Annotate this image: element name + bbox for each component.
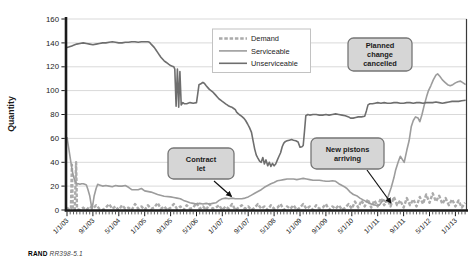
x-tick-label: 9/1/07 [233,217,251,235]
x-tick-label: 9/1/09 [310,217,328,235]
annotation-planned-change-cancelled: Plannedchangecancelled [348,38,412,71]
x-tick-label: 5/1/06 [181,217,199,235]
y-tick-label: 140 [46,39,60,48]
x-tick-label: 9/1/05 [155,217,173,235]
x-tick-label: 1/1/03 [51,217,69,235]
x-tick-label: 1/1/09 [284,217,302,235]
annotation-text-contract-let: Contract [186,155,217,164]
y-tick-label: 160 [46,15,60,24]
legend-label-unserviceable: Unserviceable [251,59,298,68]
y-tick-labels: 020406080100120140160 [46,15,60,215]
y-tick-label: 80 [50,110,59,119]
x-tick-label: 1/1/05 [129,217,147,235]
x-ticks [67,212,465,216]
y-tick-label: 0 [55,206,60,215]
caption-source: RAND [28,250,48,257]
x-tick-label: 5/1/08 [258,217,276,235]
legend-label-demand: Demand [251,34,279,43]
figure-caption: RANDRR398-5.1 [28,250,83,257]
y-axis-title: Quantity [6,96,16,132]
y-tick-label: 120 [46,62,60,71]
annotation-arrow-contract-let [214,181,232,197]
y-tick-label: 60 [50,134,59,143]
series-line-serviceable [67,74,466,209]
annotation-text-planned-change-cancelled: change [367,50,393,59]
x-tick-label: 1/1/07 [207,217,225,235]
y-ticks [61,19,64,210]
x-tick-label: 5/1/10 [336,217,354,235]
legend-label-serviceable: Serviceable [251,47,290,56]
x-tick-labels: 1/1/039/1/035/1/041/1/059/1/055/1/061/1/… [51,217,458,235]
x-tick-label: 1/1/11 [362,217,380,235]
x-tick-label: 5/1/04 [103,217,121,235]
annotation-text-contract-let: let [197,164,206,173]
y-tick-label: 40 [50,158,59,167]
annotation-text-new-pistons-arriving: New pistons [326,145,370,154]
caption-report-id: RR398-5.1 [50,250,83,257]
x-tick-label: 5/1/12 [414,217,432,235]
annotation-text-new-pistons-arriving: arriving [334,154,362,163]
x-tick-label: 9/1/11 [388,217,406,235]
rand-line-chart-figure: 1/1/039/1/035/1/041/1/059/1/055/1/061/1/… [0,0,475,271]
y-tick-label: 20 [50,182,59,191]
y-tick-label: 100 [46,86,60,95]
x-tick-label: 9/1/03 [77,217,95,235]
annotation-contract-let: Contractlet [168,148,234,197]
x-tick-label: 1/1/13 [440,217,458,235]
legend: DemandServiceableUnserviceable [213,29,311,73]
annotation-text-planned-change-cancelled: cancelled [363,59,397,68]
annotation-text-planned-change-cancelled: Planned [366,41,395,50]
chart-canvas: 1/1/039/1/035/1/041/1/059/1/055/1/061/1/… [0,0,475,271]
